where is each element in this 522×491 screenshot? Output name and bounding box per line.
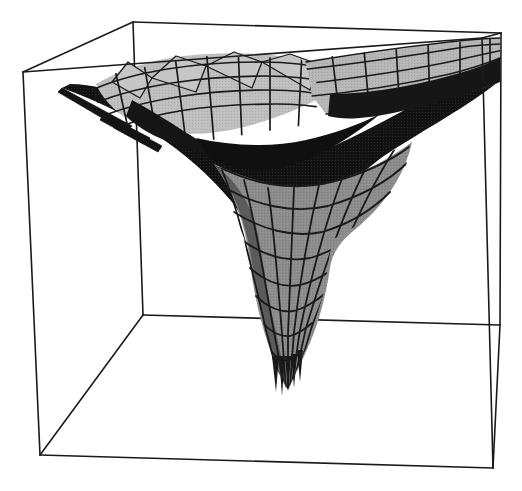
surface-plot-canvas <box>0 0 522 491</box>
surface-plot-figure <box>0 0 522 491</box>
box-edge-back-right-vertical <box>500 33 501 325</box>
